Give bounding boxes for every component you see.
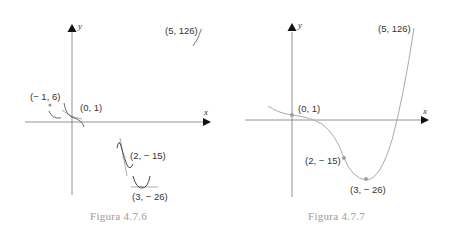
y-axis-label: y [297, 20, 302, 30]
point-label-5-126: (5, 126) [165, 25, 198, 36]
point-2-neg15 [122, 155, 125, 158]
point-2-neg15 [342, 156, 346, 160]
y-axis-arrow-icon [68, 24, 77, 32]
point-0-1 [290, 113, 294, 117]
point-neg1-6 [48, 103, 51, 106]
x-axis-arrow-icon [421, 116, 429, 124]
point-label-0-1: (0, 1) [80, 102, 102, 113]
x-axis-label: x [422, 106, 427, 116]
y-axis-arrow-icon [288, 23, 297, 31]
point-label-neg1-6: (− 1, 6) [30, 91, 60, 102]
point-label-2-neg15: (2, − 15) [130, 150, 166, 161]
curve-fragment-neg1-6 [49, 111, 61, 118]
point-label-3-neg26: (3, − 26) [132, 191, 168, 202]
polynomial-curve [268, 28, 414, 180]
point-5-126 [200, 29, 203, 32]
figure-caption: Figura 4.7.6 [90, 210, 147, 222]
point-label-0-1: (0, 1) [298, 103, 320, 114]
figure-4-7-6: y x (5, 126) (− 1, 6) (0, 1) (2, − 15) (… [25, 21, 211, 222]
figures-canvas: y x (5, 126) (− 1, 6) (0, 1) (2, − 15) (… [0, 0, 450, 227]
figure-4-7-7: y x (0, 1) (2, − 15) (3, − 26) (5, 126) … [245, 20, 429, 222]
point-label-2-neg15: (2, − 15) [305, 155, 341, 166]
point-label-5-126: (5, 126) [378, 23, 411, 34]
x-axis-arrow-icon [203, 118, 211, 126]
figure-caption: Figura 4.7.7 [308, 210, 365, 222]
y-axis-label: y [77, 21, 82, 31]
point-3-neg26 [139, 185, 142, 188]
point-3-neg26 [364, 177, 368, 181]
x-axis-label: x [203, 107, 208, 117]
point-label-3-neg26: (3, − 26) [350, 184, 386, 195]
